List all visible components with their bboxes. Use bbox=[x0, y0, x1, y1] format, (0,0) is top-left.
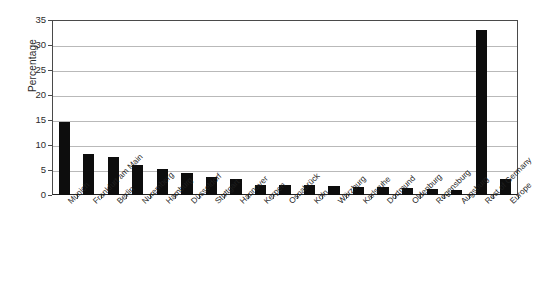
y-tick-label: 0 bbox=[22, 190, 46, 200]
x-tick-mark bbox=[126, 195, 127, 199]
y-tick-mark bbox=[48, 195, 52, 196]
x-tick-mark bbox=[273, 195, 274, 199]
x-tick-mark bbox=[518, 195, 519, 199]
gridline bbox=[53, 71, 517, 72]
x-tick-mark bbox=[469, 195, 470, 199]
gridline bbox=[53, 146, 517, 147]
x-tick-mark bbox=[444, 195, 445, 199]
y-tick-label: 25 bbox=[22, 65, 46, 75]
y-tick-label: 15 bbox=[22, 115, 46, 125]
y-tick-label: 5 bbox=[22, 165, 46, 175]
x-tick-mark bbox=[297, 195, 298, 199]
x-tick-mark bbox=[346, 195, 347, 199]
x-tick-mark bbox=[248, 195, 249, 199]
plot-area bbox=[52, 20, 518, 195]
x-tick-mark bbox=[101, 195, 102, 199]
x-tick-mark bbox=[371, 195, 372, 199]
bar-chart: Percentage 05101520253035 MunichFrankfur… bbox=[0, 0, 541, 281]
gridline bbox=[53, 171, 517, 172]
y-tick-label: 35 bbox=[22, 15, 46, 25]
x-tick-mark bbox=[493, 195, 494, 199]
x-tick-mark bbox=[150, 195, 151, 199]
x-tick-mark bbox=[77, 195, 78, 199]
y-tick-label: 10 bbox=[22, 140, 46, 150]
gridline bbox=[53, 121, 517, 122]
gridline bbox=[53, 46, 517, 47]
x-tick-mark bbox=[224, 195, 225, 199]
y-tick-label: 20 bbox=[22, 90, 46, 100]
y-tick-label: 30 bbox=[22, 40, 46, 50]
x-tick-mark bbox=[420, 195, 421, 199]
x-tick-mark bbox=[395, 195, 396, 199]
x-tick-mark bbox=[322, 195, 323, 199]
x-tick-mark bbox=[175, 195, 176, 199]
x-tick-mark bbox=[199, 195, 200, 199]
gridline bbox=[53, 96, 517, 97]
